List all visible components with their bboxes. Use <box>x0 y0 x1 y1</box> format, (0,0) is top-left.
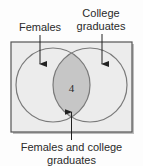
venn-diagram: 4 Females College graduates Females and … <box>0 0 143 166</box>
college-label-line1: College <box>82 7 119 19</box>
intersection-label-line2: graduates <box>47 154 96 166</box>
females-label: Females <box>19 21 62 33</box>
college-label-line2: graduates <box>77 20 126 32</box>
intersection-value: 4 <box>69 82 75 94</box>
intersection-label-line1: Females and college <box>21 141 123 153</box>
